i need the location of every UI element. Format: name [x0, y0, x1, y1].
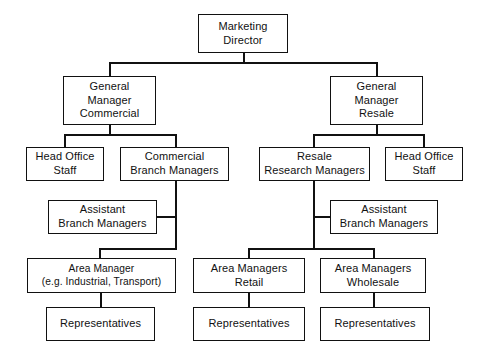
node-gm-resale[interactable]: General Manager Resale [330, 76, 423, 125]
edge-bus-to-gm-commercial [109, 62, 111, 77]
edge-area-manager-industrial-to-reps [100, 293, 102, 308]
node-area-manager-industrial[interactable]: Area Manager (e.g. Industrial, Transport… [27, 258, 176, 293]
edge-bus-to-resale-research-managers [313, 134, 315, 148]
edge-bus-to-head-office-commercial [64, 134, 66, 148]
node-assistant-branch-managers-commercial[interactable]: Assistant Branch Managers [48, 200, 157, 234]
node-area-managers-retail[interactable]: Area Managers Retail [193, 258, 305, 293]
org-chart-diagram: Marketing Director General Manager Comme… [0, 0, 484, 359]
edge-resale-to-assistant-branch [313, 216, 331, 218]
edge-area-managers-wholesale-to-reps [373, 293, 375, 308]
edge-bus-to-head-office-resale [423, 134, 425, 148]
node-assistant-branch-managers-resale[interactable]: Assistant Branch Managers [330, 200, 438, 234]
node-representatives-industrial[interactable]: Representatives [46, 307, 155, 341]
edge-bus-to-commercial-branch-managers [175, 134, 177, 148]
node-head-office-staff-commercial[interactable]: Head Office Staff [26, 147, 104, 181]
node-area-managers-wholesale[interactable]: Area Managers Wholesale [320, 258, 426, 293]
node-commercial-branch-managers[interactable]: Commercial Branch Managers [120, 147, 229, 181]
node-head-office-staff-resale[interactable]: Head Office Staff [385, 147, 463, 181]
edge-area-managers-retail-to-reps [248, 293, 250, 308]
edge-gm-resale-bus [313, 134, 424, 136]
edge-commercial-to-assistant-branch [157, 216, 177, 218]
node-resale-research-managers[interactable]: Resale Research Managers [259, 147, 370, 181]
node-marketing-director[interactable]: Marketing Director [198, 14, 288, 53]
edge-commercial-spine-to-area-manager [99, 248, 177, 250]
node-representatives-wholesale[interactable]: Representatives [320, 307, 430, 341]
edge-gm-commercial-bus [64, 134, 176, 136]
edge-resale-spine-bus [248, 248, 374, 250]
node-gm-commercial[interactable]: General Manager Commercial [63, 76, 156, 125]
edge-bus-to-gm-resale [376, 62, 378, 77]
node-representatives-retail[interactable]: Representatives [193, 307, 305, 341]
edge-director-bus [109, 62, 377, 64]
